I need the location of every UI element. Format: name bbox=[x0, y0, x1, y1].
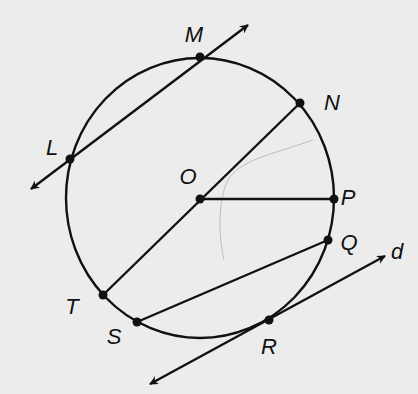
point-label-t: T bbox=[65, 296, 78, 318]
point-o-dot bbox=[196, 195, 205, 204]
secant-LM-line bbox=[31, 25, 248, 189]
point-label-r: R bbox=[261, 336, 277, 358]
point-r-dot bbox=[265, 316, 274, 325]
point-label-m: M bbox=[185, 24, 203, 46]
segments bbox=[103, 103, 334, 322]
point-l-dot bbox=[66, 155, 75, 164]
point-label-l: L bbox=[46, 137, 58, 159]
line-label-d: d bbox=[391, 241, 403, 263]
point-label-s: S bbox=[107, 326, 122, 348]
point-label-n: N bbox=[324, 92, 340, 114]
point-m-dot bbox=[196, 53, 205, 62]
point-p-dot bbox=[330, 195, 339, 204]
point-label-q: Q bbox=[340, 232, 357, 254]
geometry-diagram: MNLOPQTSR d bbox=[0, 0, 418, 394]
point-q-dot bbox=[324, 236, 333, 245]
lines bbox=[31, 25, 385, 384]
chord-SQ-segment bbox=[137, 240, 328, 322]
points bbox=[66, 53, 339, 327]
point-n-dot bbox=[296, 99, 305, 108]
point-t-dot bbox=[99, 291, 108, 300]
point-label-p: P bbox=[341, 187, 356, 209]
point-label-o: O bbox=[179, 166, 196, 188]
point-s-dot bbox=[133, 318, 142, 327]
